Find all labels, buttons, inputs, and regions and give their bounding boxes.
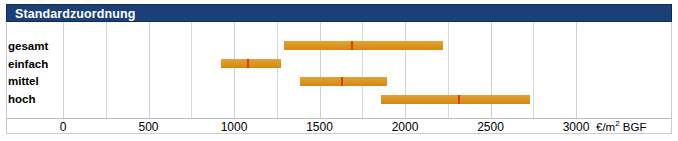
- page-title: Standardzuordnung: [15, 6, 135, 22]
- category-labels: gesamt einfach mittel hoch: [8, 38, 68, 108]
- x-tick-label-500: 500: [138, 120, 158, 135]
- x-axis-line: [7, 118, 671, 119]
- x-tick-label-3000: 3000: [563, 120, 590, 135]
- chart-title-bar: Standardzuordnung: [6, 4, 672, 22]
- axis-unit-label: €/m2 BGF: [596, 120, 646, 135]
- x-tick-label-0: 0: [60, 120, 67, 135]
- axis-unit-text: €/m: [596, 121, 615, 133]
- standardzuordnung-chart-figure: Standardzuordnung gesamt einfach mittel …: [0, 0, 678, 141]
- category-label-hoch: hoch: [8, 91, 68, 109]
- category-label-einfach: einfach: [8, 56, 68, 74]
- category-label-gesamt: gesamt: [8, 38, 68, 56]
- x-tick-label-1000: 1000: [221, 120, 248, 135]
- x-tick-label-2000: 2000: [392, 120, 419, 135]
- axis-unit-suffix: BGF: [620, 121, 647, 133]
- x-tick-label-1500: 1500: [306, 120, 333, 135]
- x-tick-label-2500: 2500: [477, 120, 504, 135]
- category-label-mittel: mittel: [8, 73, 68, 91]
